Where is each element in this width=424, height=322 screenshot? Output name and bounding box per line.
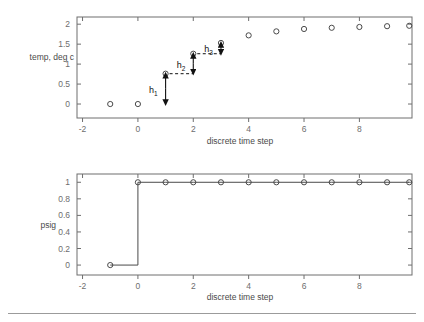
x-tick-label: 6 (302, 124, 307, 134)
x-tick-label: 2 (191, 124, 196, 134)
y-tick-label: 1 (65, 177, 70, 187)
x-axis-label-top: discrete time step (150, 136, 330, 146)
x-tick-label: -2 (79, 124, 87, 134)
step-height-annotation: h2 (177, 54, 221, 72)
data-point-marker (274, 29, 279, 34)
y-tick-label: 0.5 (58, 79, 70, 89)
data-point-marker (246, 33, 251, 38)
y-tick-label: 0.4 (58, 227, 70, 237)
figure-canvas: 00.511.52-202468h1h2h3 temp, deg c discr… (0, 0, 424, 322)
step-height-annotation: h3 (204, 44, 221, 56)
x-tick-label: 8 (357, 281, 362, 291)
x-tick-label: 4 (246, 124, 251, 134)
x-tick-label: 8 (357, 124, 362, 134)
y-axis-label-psig: psig (8, 220, 56, 230)
step-signal-line (110, 182, 409, 265)
y-tick-label: 0 (65, 260, 70, 270)
data-point-marker (329, 25, 334, 30)
y-tick-label: 2 (65, 19, 70, 29)
annotation-label: h2 (177, 60, 186, 72)
chart-panel-temperature: 00.511.52-202468h1h2h3 temp, deg c discr… (0, 0, 424, 160)
x-tick-label: 4 (246, 281, 251, 291)
y-tick-label: 0.6 (58, 210, 70, 220)
x-tick-label: 0 (136, 124, 141, 134)
psig-plot-area: 00.20.40.60.81-202468 (0, 160, 424, 310)
x-axis-label-bottom: discrete time step (150, 292, 330, 302)
axes-frame (77, 174, 412, 275)
data-point-marker (108, 101, 113, 106)
data-point-marker (384, 24, 389, 29)
data-point-marker (135, 101, 140, 106)
x-tick-label: -2 (79, 281, 87, 291)
annotation-label: h3 (204, 44, 213, 56)
step-height-annotation: h1 (149, 74, 193, 103)
y-axis-label-temp: temp, deg c (8, 52, 74, 62)
axes-frame (77, 17, 412, 118)
x-tick-label: 0 (136, 281, 141, 291)
x-tick-label: 2 (191, 281, 196, 291)
data-point-marker (357, 24, 362, 29)
y-tick-label: 1.5 (58, 39, 70, 49)
y-tick-label: 0.8 (58, 194, 70, 204)
y-tick-label: 0 (65, 99, 70, 109)
y-tick-label: 0.2 (58, 244, 70, 254)
annotation-label: h1 (149, 85, 158, 97)
x-tick-label: 6 (302, 281, 307, 291)
data-point-marker (301, 26, 306, 31)
footer-divider (8, 313, 416, 314)
chart-panel-psig: 00.20.40.60.81-202468 psig discrete time… (0, 160, 424, 310)
